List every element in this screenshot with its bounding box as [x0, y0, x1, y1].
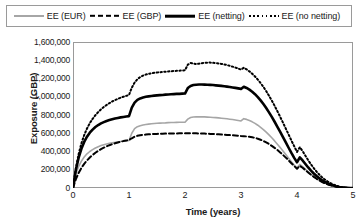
y-axis-tick-label: 1,000,000 [8, 92, 70, 101]
legend-item-ee-no-netting: EE (no netting) [249, 6, 345, 26]
y-axis-tick-label: 200,000 [8, 165, 70, 174]
legend-label-ee-no-netting: EE (no netting) [279, 12, 345, 21]
legend-label-ee-gbp: EE (GBP) [120, 12, 166, 21]
legend-item-ee-gbp: EE (GBP) [90, 6, 166, 26]
y-axis-tick-label: 400,000 [8, 147, 70, 156]
dotted-black-line-icon [249, 12, 279, 21]
y-axis-tick-label: 800,000 [8, 111, 70, 120]
chart-canvas [73, 42, 353, 188]
thick-solid-black-line-icon [165, 12, 195, 21]
y-axis-tick-label: 1,600,000 [8, 38, 70, 47]
legend-item-ee-netting: EE (netting) [165, 6, 248, 26]
x-axis-tick-label: 2 [175, 191, 195, 200]
plot-frame [74, 43, 353, 188]
y-axis-tick-label: 600,000 [8, 129, 70, 138]
y-axis-tick-label: 1,400,000 [8, 56, 70, 65]
y-axis-tick-label: 1,200,000 [8, 74, 70, 83]
x-axis-tick-label: 4 [287, 191, 307, 200]
exposure-profile-chart: EE (EUR) EE (GBP) EE (netting) EE (no ne… [0, 0, 364, 224]
y-axis-tick-label: 0 [8, 184, 70, 193]
legend-label-ee-netting: EE (netting) [195, 12, 248, 21]
x-axis-tick-label: 1 [119, 191, 139, 200]
x-axis-tick-label: 0 [63, 191, 83, 200]
x-axis-title: Time (years) [73, 206, 353, 217]
x-axis-tick-label: 5 [343, 191, 363, 200]
y-axis-tick-labels: 0200,000400,000600,000800,0001,000,0001,… [6, 0, 70, 224]
x-axis-tick-label: 3 [231, 191, 251, 200]
dashed-black-line-icon [90, 12, 120, 21]
plot-area [73, 42, 353, 188]
